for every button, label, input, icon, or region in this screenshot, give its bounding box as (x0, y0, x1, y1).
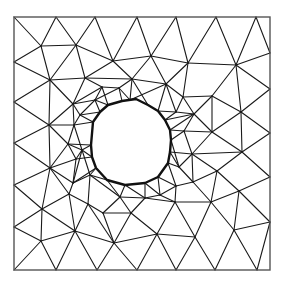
mesh-edge (179, 154, 192, 167)
mesh-edge (113, 17, 137, 61)
mesh-edge (176, 112, 194, 114)
mesh-edge (184, 131, 212, 132)
mesh-edge (183, 96, 212, 97)
mesh-edge (42, 209, 75, 231)
mesh-edge (175, 202, 195, 237)
mesh-edge (193, 182, 211, 202)
mesh-edge (76, 45, 85, 78)
mesh-edge (166, 63, 188, 84)
mesh-edge (175, 186, 176, 202)
mesh-edge (212, 132, 242, 152)
mesh-edge (184, 114, 194, 131)
mesh-edge (179, 167, 193, 182)
mesh-edge (75, 204, 88, 231)
mesh-edge (132, 79, 166, 84)
mesh-edge (73, 104, 74, 125)
mesh-edge (211, 202, 234, 230)
mesh-edge (195, 202, 211, 237)
circular-hole (91, 99, 171, 185)
mesh-edge (41, 231, 75, 241)
mesh-edge (256, 17, 270, 53)
mesh-edge (69, 194, 75, 231)
mesh-edge (158, 177, 160, 195)
mesh-edge (176, 237, 195, 270)
mesh-edge (216, 17, 236, 65)
mesh-edge (14, 209, 42, 227)
mesh-edge (241, 89, 270, 112)
mesh-edge (192, 132, 212, 154)
mesh-edge (50, 45, 76, 80)
mesh-edge (215, 230, 234, 270)
mesh-edge (176, 97, 183, 112)
mesh-edge (257, 222, 270, 270)
mesh-edge (119, 79, 132, 88)
mesh-edge (241, 112, 242, 152)
mesh-edge (212, 112, 241, 132)
mesh-edge (236, 53, 270, 65)
mesh-edge (184, 131, 192, 154)
mesh-edge (151, 17, 176, 56)
mesh-edge (217, 152, 242, 171)
mesh-edge (212, 65, 236, 96)
mesh-edge (120, 197, 145, 198)
mesh-edge (14, 80, 50, 102)
mesh-edge (130, 79, 132, 100)
mesh-edge (68, 144, 91, 145)
mesh-edge (50, 168, 73, 183)
mesh-edge (113, 61, 132, 79)
mesh-edge (192, 152, 242, 154)
mesh-edge (194, 96, 212, 114)
mesh-edge (183, 97, 194, 114)
mesh-edge (151, 56, 188, 63)
mesh-edge (145, 183, 160, 195)
mesh-edge (14, 125, 49, 143)
mesh-edge (82, 145, 91, 150)
mesh-edge (14, 241, 41, 270)
mesh-edge (120, 185, 125, 197)
mesh-edge (73, 104, 80, 115)
mesh-edge (41, 17, 56, 46)
mesh-edge (195, 237, 215, 270)
mesh-edge (242, 152, 270, 177)
mesh-edge (14, 46, 41, 62)
mesh-edge (151, 56, 166, 84)
mesh-edge (132, 56, 151, 79)
mesh-edge (171, 140, 179, 167)
mesh-edge (85, 78, 132, 79)
mesh-edge (50, 80, 73, 104)
mesh-edge (176, 182, 193, 186)
mesh-edge (158, 84, 166, 111)
mesh-edge (82, 150, 90, 175)
mesh-edge (85, 61, 113, 78)
mesh-edge (114, 213, 131, 243)
mesh-edge (157, 202, 175, 234)
mesh-edge (137, 234, 157, 270)
mesh-edge (194, 114, 212, 132)
mesh-edge (130, 84, 166, 100)
mesh-edge (49, 125, 68, 144)
mesh-edge (193, 171, 217, 182)
mesh-edge (74, 125, 82, 150)
mesh-diagram (0, 0, 284, 288)
mesh-edge (234, 222, 270, 230)
mesh-edge (217, 171, 239, 191)
mesh-edge (236, 17, 256, 65)
mesh-edge (160, 186, 176, 195)
mesh-edge (42, 194, 69, 209)
mesh-edge (239, 177, 270, 191)
mesh-edge (102, 87, 119, 88)
mesh-edge (14, 102, 49, 125)
mesh-edge (158, 111, 176, 112)
mesh-edge (170, 130, 184, 131)
mesh-edge (188, 63, 236, 65)
mesh-edge (88, 204, 114, 243)
mesh-edge (74, 115, 80, 125)
mesh-edge (234, 230, 257, 270)
mesh-edge (41, 45, 76, 46)
mesh-edge (212, 96, 241, 112)
mesh-edge (68, 125, 74, 144)
mesh-edge (114, 234, 157, 243)
mesh-edge (236, 65, 241, 112)
mesh-edge (49, 125, 50, 168)
mesh-edge (14, 168, 50, 185)
